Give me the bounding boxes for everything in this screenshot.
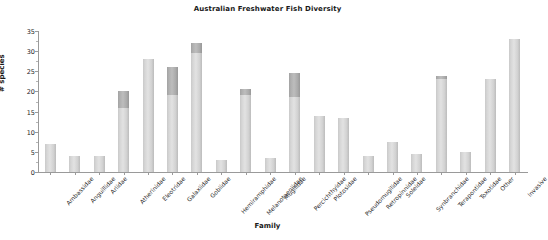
bar-segment-base [485, 79, 496, 172]
bar-melanotaeniidae[interactable] [240, 89, 251, 172]
x-tick-mark [295, 172, 296, 175]
y-tick-mark [35, 51, 38, 52]
bar-toxotidae[interactable] [460, 152, 471, 172]
bar-segment-base [387, 142, 398, 172]
bar-segment-top [118, 91, 129, 107]
bar-segment-base [436, 79, 447, 172]
x-tick-label-invasive: Invasive [526, 175, 548, 198]
x-tick-mark [246, 172, 247, 175]
x-tick-mark [148, 172, 149, 175]
x-tick-mark [75, 172, 76, 175]
x-tick-mark [490, 172, 491, 175]
bar-atherinidae[interactable] [118, 91, 129, 172]
x-tick-mark [221, 172, 222, 175]
y-tick-label: 30 [22, 48, 35, 56]
x-tick-mark [368, 172, 369, 175]
y-tick-minor [36, 81, 38, 82]
bar-soleidae[interactable] [387, 142, 398, 172]
bar-segment-base [265, 158, 276, 172]
x-tick-mark [466, 172, 467, 175]
bar-segment-base [191, 53, 202, 172]
y-tick-minor [36, 142, 38, 143]
chart-title: Australian Freshwater Fish Diversity [0, 5, 535, 13]
y-tick-mark [35, 152, 38, 153]
bar-galaxiidae[interactable] [167, 67, 178, 172]
y-tick-minor [36, 61, 38, 62]
y-tick-label: 0 [22, 169, 35, 177]
bar-mugilidae[interactable] [265, 158, 276, 172]
x-tick-label-galaxiidae: Galaxiidae [186, 175, 213, 203]
bar-ambassidae[interactable] [45, 144, 56, 172]
x-tick-mark [197, 172, 198, 175]
y-tick-mark [35, 112, 38, 113]
y-tick-label: 35 [22, 28, 35, 36]
bar-retropinnidae[interactable] [363, 156, 374, 172]
bar-synbranchidae[interactable] [411, 154, 422, 172]
y-tick-minor [36, 102, 38, 103]
bar-hemiramphidae[interactable] [216, 160, 227, 172]
y-tick-mark [35, 31, 38, 32]
bar-percichthyidae[interactable] [289, 73, 300, 172]
bar-segment-base [240, 95, 251, 172]
y-tick-mark [35, 132, 38, 133]
x-tick-mark [319, 172, 320, 175]
bar-terapontidae[interactable] [436, 76, 447, 172]
x-tick-mark [99, 172, 100, 175]
bar-anguillidae[interactable] [69, 156, 80, 172]
bar-segment-base [338, 118, 349, 172]
y-axis-label: # species [0, 54, 6, 92]
bar-segment-base [460, 152, 471, 172]
bar-segment-base [94, 156, 105, 172]
x-tick-mark [417, 172, 418, 175]
y-tick-label: 20 [22, 88, 35, 96]
bar-segment-base [509, 39, 520, 172]
x-tick-label-atherinidae: Atherinidae [138, 175, 167, 205]
x-tick-mark [515, 172, 516, 175]
bar-eleotridae[interactable] [143, 59, 154, 172]
x-tick-mark [441, 172, 442, 175]
x-tick-mark [172, 172, 173, 175]
bar-other[interactable] [485, 79, 496, 172]
bar-segment-base [411, 154, 422, 172]
bar-plotosidae[interactable] [314, 116, 325, 172]
bar-segment-base [167, 95, 178, 172]
x-tick-label-other: Other [499, 175, 516, 192]
y-tick-minor [36, 162, 38, 163]
x-tick-mark [344, 172, 345, 175]
y-tick-mark [35, 91, 38, 92]
bar-segment-base [69, 156, 80, 172]
bar-segment-base [314, 116, 325, 172]
bar-segment-base [45, 144, 56, 172]
bar-ariidae[interactable] [94, 156, 105, 172]
bar-segment-base [118, 108, 129, 172]
y-tick-mark [35, 172, 38, 173]
plot-area: 05101520253035 [38, 31, 527, 172]
x-tick-mark [50, 172, 51, 175]
x-tick-mark [393, 172, 394, 175]
x-axis-label: Family [0, 222, 535, 230]
bar-segment-top [167, 67, 178, 95]
y-tick-minor [36, 122, 38, 123]
bar-invasive[interactable] [509, 39, 520, 172]
bar-pseudomugilidae[interactable] [338, 118, 349, 172]
bar-gobiidae[interactable] [191, 43, 202, 172]
bar-segment-base [216, 160, 227, 172]
y-tick-label: 5 [22, 148, 35, 156]
bar-segment-top [191, 43, 202, 53]
bar-segment-base [363, 156, 374, 172]
bar-segment-base [143, 59, 154, 172]
bar-segment-base [289, 97, 300, 172]
x-axis-line [38, 172, 528, 173]
y-tick-label: 15 [22, 108, 35, 116]
y-tick-label: 10 [22, 128, 35, 136]
bar-segment-top [289, 73, 300, 97]
y-tick-label: 25 [22, 68, 35, 76]
y-tick-minor [36, 41, 38, 42]
y-tick-mark [35, 71, 38, 72]
x-tick-mark [124, 172, 125, 175]
